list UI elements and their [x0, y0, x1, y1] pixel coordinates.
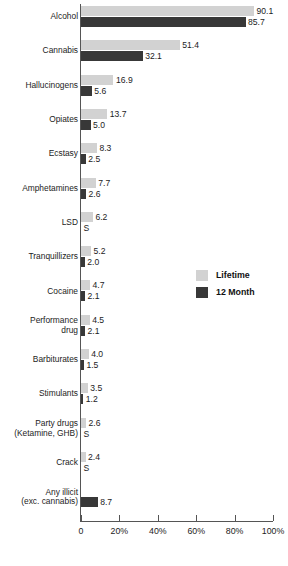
x-axis-tick-label: 100%: [262, 526, 285, 537]
category-label: Stimulants: [0, 389, 78, 399]
category-label: Alcohol: [0, 12, 78, 22]
bar-12-month: [81, 154, 86, 164]
x-axis-tick: [235, 515, 236, 521]
bar-lifetime: [81, 349, 89, 359]
bar-value-label: 8.7: [100, 497, 112, 507]
bar-value-label: S: [84, 463, 90, 473]
x-axis-tick-label: 20%: [111, 526, 129, 537]
bar-row: Opiates13.75.0: [0, 109, 288, 130]
bar-value-label: S: [84, 223, 90, 233]
bar-12-month: [81, 17, 246, 27]
legend-swatch-lifetime: [196, 270, 208, 281]
bar-value-label: 2.6: [88, 418, 100, 428]
bar-value-label: S: [84, 429, 90, 439]
bar-row: Cannabis51.432.1: [0, 40, 288, 61]
bar-lifetime: [81, 452, 86, 462]
bar-12-month: [81, 257, 85, 267]
bar-lifetime: [81, 75, 113, 85]
x-axis-tick: [81, 515, 82, 521]
bar-row: LSD6.2S: [0, 212, 288, 233]
bar-row: Amphetamines7.72.6: [0, 178, 288, 199]
category-label: Opiates: [0, 115, 78, 125]
bar-12-month: [81, 86, 92, 96]
bar-lifetime: [81, 212, 93, 222]
bar-value-label: 16.9: [116, 75, 133, 85]
bar-value-label: 4.5: [92, 315, 104, 325]
bar-row: Tranquillizers5.22.0: [0, 246, 288, 267]
bar-lifetime: [81, 109, 107, 119]
bar-value-label: 85.7: [248, 17, 265, 27]
x-axis-tick: [119, 515, 120, 521]
bar-lifetime: [81, 315, 90, 325]
bar-lifetime: [81, 383, 88, 393]
bar-value-label: 51.4: [182, 40, 199, 50]
bar-value-label: 5.0: [93, 120, 105, 130]
x-axis-tick-label: 60%: [187, 526, 205, 537]
legend-label-lifetime: Lifetime: [216, 269, 250, 281]
bar-12-month: [81, 394, 83, 404]
category-label: Crack: [0, 458, 78, 468]
legend-label-12-month: 12 Month: [216, 286, 255, 298]
bar-lifetime: [81, 143, 97, 153]
bar-lifetime: [81, 6, 254, 16]
bar-row: Stimulants3.51.2: [0, 383, 288, 404]
bar-value-label: 2.4: [88, 452, 100, 462]
category-label: Performance drug: [0, 316, 78, 335]
bar-row: Ecstasy8.32.5: [0, 143, 288, 164]
category-label: Amphetamines: [0, 184, 78, 194]
x-axis-tick-label: 80%: [226, 526, 244, 537]
x-axis-line: [80, 521, 273, 522]
legend-swatch-12-month: [196, 287, 208, 298]
bar-lifetime: [81, 246, 91, 256]
bar-value-label: 3.5: [90, 383, 102, 393]
bar-value-label: 5.2: [93, 246, 105, 256]
x-axis-tick: [273, 515, 274, 521]
category-label: Cocaine: [0, 287, 78, 297]
bar-value-label: 1.5: [86, 360, 98, 370]
bar-12-month: [81, 51, 143, 61]
bar-12-month: [81, 291, 85, 301]
bar-12-month: [81, 120, 91, 130]
bar-row: Hallucinogens16.95.6: [0, 75, 288, 96]
bar-value-label: 2.5: [88, 154, 100, 164]
bar-value-label: 2.1: [88, 326, 100, 336]
bar-lifetime: [81, 418, 86, 428]
category-label: Party drugs (Ketamine, GHB): [0, 419, 78, 438]
bar-12-month: [81, 326, 85, 336]
bar-row: Any illicit (exc. cannabis)8.7: [0, 486, 288, 507]
category-label: Hallucinogens: [0, 81, 78, 91]
bar-chart: Alcohol90.185.7Cannabis51.432.1Hallucino…: [0, 0, 288, 566]
bar-row: Performance drug4.52.1: [0, 315, 288, 336]
category-label: Ecstasy: [0, 149, 78, 159]
x-axis-tick-label: 40%: [149, 526, 167, 537]
category-label: Cannabis: [0, 46, 78, 56]
bar-row: Alcohol90.185.7: [0, 6, 288, 27]
bar-12-month: [81, 189, 86, 199]
bar-lifetime: [81, 280, 90, 290]
bar-value-label: 4.0: [91, 349, 103, 359]
bar-value-label: 2.0: [87, 257, 99, 267]
plot-area: Alcohol90.185.7Cannabis51.432.1Hallucino…: [0, 0, 288, 566]
bar-value-label: 7.7: [98, 178, 110, 188]
bar-value-label: 90.1: [256, 6, 273, 16]
bar-row: Crack2.4S: [0, 452, 288, 473]
bar-value-label: 1.2: [86, 394, 98, 404]
bar-row: Party drugs (Ketamine, GHB)2.6S: [0, 418, 288, 439]
category-label: LSD: [0, 218, 78, 228]
bar-lifetime: [81, 178, 96, 188]
bar-row: Barbiturates4.01.5: [0, 349, 288, 370]
category-label: Tranquillizers: [0, 252, 78, 262]
category-label: Barbiturates: [0, 355, 78, 365]
bar-value-label: 4.7: [93, 280, 105, 290]
bar-12-month: [81, 360, 84, 370]
category-label: Any illicit (exc. cannabis): [0, 488, 78, 507]
bar-value-label: 13.7: [110, 109, 127, 119]
bar-value-label: 5.6: [94, 86, 106, 96]
bar-value-label: 8.3: [99, 143, 111, 153]
bar-value-label: 6.2: [95, 212, 107, 222]
bar-12-month: [81, 497, 98, 507]
x-axis-tick-label: 0: [79, 526, 84, 537]
x-axis-tick: [196, 515, 197, 521]
bar-value-label: 32.1: [145, 51, 162, 61]
bar-value-label: 2.6: [88, 189, 100, 199]
